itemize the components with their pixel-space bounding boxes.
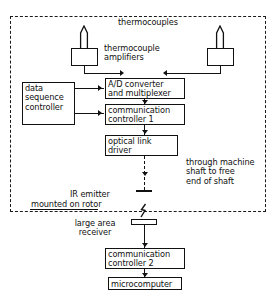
block-data-sequence-controller: data sequence controller: [22, 82, 75, 125]
arrowhead-receiver-to-cc2: [142, 243, 148, 247]
through-machine-shaft-label: through machine shaft to free end of sha…: [186, 158, 254, 186]
mounted-on-rotor-underline: [30, 209, 98, 210]
ir-emitter-symbol: [136, 190, 152, 192]
thermocouple-amplifiers-label: thermocouple amplifiers: [104, 44, 160, 63]
thermocouple-probe-left: [78, 25, 90, 49]
arrowhead-shaft-run: [142, 172, 148, 176]
wire-amp-right-across: [166, 73, 221, 74]
block-communication-controller-2: communication controller 2: [105, 248, 185, 269]
block-ad-converter-and-multiplexer: A/D converter and multiplexer: [105, 78, 185, 99]
thermocouple-amplifier-left: [71, 48, 98, 66]
arrowhead-amp-right: [163, 70, 167, 76]
mounted-on-rotor-label: mounted on rotor: [31, 200, 101, 209]
arrowhead-cc1-to-old: [142, 130, 148, 134]
block-optical-link-driver: optical link driver: [105, 135, 178, 156]
large-area-receiver-label: large area receiver: [64, 219, 126, 238]
dashed-shaft-run-lower: [144, 177, 145, 190]
wire-amp-left-across: [84, 73, 122, 74]
thermocouple-probe-right: [214, 25, 226, 49]
ir-emitter-label: IR emitter: [70, 190, 110, 199]
diagram-canvas: thermocouples thermocouple amplifiers A/…: [0, 0, 277, 295]
arrowhead-dsc-to-adc: [98, 85, 102, 91]
arrowhead-amp-left: [120, 70, 124, 76]
block-communication-controller-1: communication controller 1: [105, 104, 185, 125]
thermocouples-label: thermocouples: [118, 18, 178, 27]
arrowhead-dsc-to-cc1: [98, 110, 102, 116]
thermocouple-amplifier-right: [207, 48, 234, 66]
block-microcomputer: microcomputer: [108, 277, 182, 290]
